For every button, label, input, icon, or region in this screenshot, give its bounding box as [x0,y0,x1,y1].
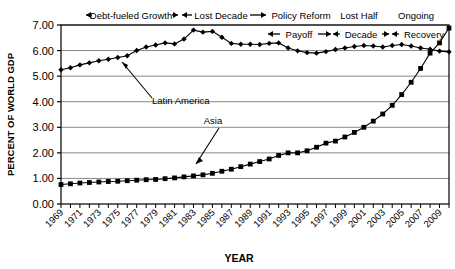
data-point [106,179,111,184]
data-point [238,41,243,46]
era-decade-right-right-arrow [384,31,389,37]
data-point [115,179,120,184]
data-point [295,150,300,155]
data-point [248,41,253,46]
era-label-ongoing: Ongoing [398,10,434,21]
x-tick-label: 1989 [232,207,255,230]
data-point [371,119,376,124]
data-point [399,42,404,47]
data-point [210,29,215,34]
data-point [314,145,319,150]
x-tick-label: 2009 [421,207,444,230]
data-point [106,57,111,62]
data-point [257,159,262,164]
data-point [191,173,196,178]
y-tick-label: 7.00 [33,19,54,31]
x-tick-label: 1973 [81,207,104,230]
data-point [182,174,187,179]
y-tick-label: 5.00 [33,70,54,82]
data-point [144,177,149,182]
gridlines [61,25,449,178]
data-point [238,164,243,169]
x-tick-label: 1987 [213,207,236,230]
data-point [390,43,395,48]
era-label-lost-decade: Lost Decade [194,10,247,21]
data-point [59,182,64,187]
y-tick-label: 1.00 [33,172,54,184]
data-point [446,49,451,54]
data-point [447,26,452,31]
data-point [361,125,366,130]
data-point [87,180,92,185]
data-point [134,48,139,53]
data-point [380,44,385,49]
data-point [134,178,139,183]
x-tick-label: 1983 [175,207,198,230]
era-payoff-right-right-arrow [326,31,331,37]
data-point [437,48,442,53]
data-point [276,153,281,158]
data-point [210,171,215,176]
y-tick-label: 6.00 [33,45,54,57]
data-point [305,148,310,153]
series-asia [59,26,452,187]
data-point [342,45,347,50]
x-tick-label: 2003 [364,207,387,230]
data-point [257,42,262,47]
data-point [314,50,319,55]
x-tick-label: 1971 [62,207,85,230]
data-point [58,67,63,72]
data-point [276,40,281,45]
x-tick-label: 1979 [137,207,160,230]
data-point [115,55,120,60]
data-point [285,45,290,50]
data-point [200,29,205,34]
data-point [172,176,177,181]
data-point [96,180,101,185]
x-tick-label: 1993 [270,207,293,230]
data-point [219,35,224,40]
x-tick-label: 2007 [402,207,425,230]
data-point [352,44,357,49]
data-point [96,58,101,63]
x-tick-label: 2005 [383,207,406,230]
series-line-latin-america [61,30,449,70]
data-point [390,103,395,108]
era-lost-decade-left-left-arrow [182,12,187,18]
data-point [153,177,158,182]
data-point [418,45,423,50]
x-tick-label: 1999 [327,207,350,230]
data-point [324,141,329,146]
x-tick-label: 1995 [289,207,312,230]
x-tick-label: 1985 [194,207,217,230]
annotation-arrowhead-asia [196,157,203,164]
data-point [77,62,82,67]
data-point [352,130,357,135]
data-point [286,150,291,155]
data-point [380,112,385,117]
era-lost-decade-right-right-arrow [261,12,266,18]
era-label-lost-half: Lost Half [340,10,378,21]
data-point [361,43,366,48]
x-axis-title: YEAR [224,252,254,264]
data-point [87,60,92,65]
data-point [163,176,168,181]
data-point [333,47,338,52]
data-point [229,41,234,46]
data-point [143,44,148,49]
era-recovery-left-left-arrow [392,31,397,37]
data-point [229,167,234,172]
plot-frame [61,25,449,204]
data-point [248,162,253,167]
x-tick-label: 1981 [156,207,179,230]
data-point [125,53,130,58]
y-axis-title: PERCENT OF WORLD GDP [5,52,16,176]
data-point [399,92,404,97]
gdp-share-line-chart: 7.006.005.004.003.002.001.000.00PERCENT … [0,0,455,269]
data-point [437,41,442,46]
era-decade-left-left-arrow [333,31,338,37]
era-label-payoff: Payoff [286,29,313,40]
data-point [323,49,328,54]
era-payoff-left-left-arrow [268,31,273,37]
y-tick-label: 2.00 [33,147,54,159]
